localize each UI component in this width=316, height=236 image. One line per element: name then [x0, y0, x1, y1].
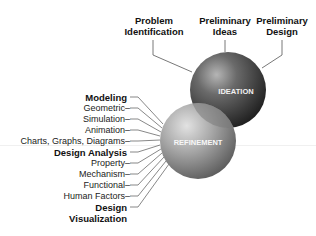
label-functional: Functional– [83, 180, 130, 191]
label-preliminary-design: Preliminary Design [250, 15, 314, 37]
label-design-analysis: Design Analysis [54, 147, 127, 158]
label-geometric: Geometric– [83, 103, 130, 114]
label-visualization: Visualization [69, 213, 127, 224]
label-design: Design [95, 202, 127, 213]
label-human-factors: Human Factors– [63, 191, 130, 202]
label-charts-graphs-diagrams: Charts, Graphs, Diagrams– [20, 136, 130, 147]
label-modeling: Modeling [85, 92, 127, 103]
label-property: Property– [91, 158, 130, 169]
label-preliminary-ideas: Preliminary Ideas [193, 15, 257, 37]
refinement-label: REFINEMENT [174, 138, 223, 147]
ideation-label: IDEATION [218, 87, 253, 96]
label-problem-identification: Problem Identification [118, 15, 190, 37]
label-mechanism: Mechanism– [79, 169, 130, 180]
label-animation: Animation– [85, 125, 130, 136]
label-simulation: Simulation– [83, 114, 130, 125]
